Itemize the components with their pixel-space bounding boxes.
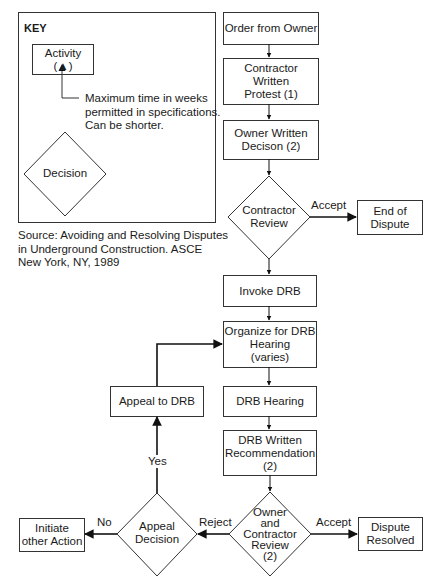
node-appeal-decision: Appeal Decision — [120, 515, 194, 551]
source-citation: Source: Avoiding and Resolving Disputes … — [18, 229, 228, 270]
node-contractor-review: Contractor Review — [229, 196, 309, 238]
node-owner-written-decision: Owner Written Decison (2) — [224, 121, 318, 159]
node-organize-drb-hearing: Organize for DRB Hearing (varies) — [224, 322, 316, 367]
node-contractor-written-protest: Contractor Written Protest (1) — [224, 59, 318, 104]
node-invoke-drb: Invoke DRB — [224, 276, 316, 306]
edge-label-yes: Yes — [147, 455, 168, 468]
key-decision-label: Decision — [24, 167, 106, 180]
edge-label-accept-2: Accept — [316, 516, 351, 529]
node-owner-contractor-review: Owner and Contractor Review (2) — [234, 505, 306, 563]
edge-label-accept-1: Accept — [311, 199, 346, 212]
node-initiate-other-action: Initiate other Action — [20, 519, 84, 551]
key-activity-marker: (▲) — [33, 60, 93, 73]
node-drb-written-recommendation: DRB Written Recommendation (2) — [224, 431, 316, 475]
key-note: Maximum time in weeks permitted in speci… — [85, 92, 221, 133]
node-dispute-resolved: Dispute Resolved — [359, 518, 422, 550]
node-order-from-owner: Order from Owner — [224, 13, 318, 44]
edge-label-reject: Reject — [199, 516, 232, 529]
flowchart-lines — [0, 0, 435, 586]
key-title: KEY — [24, 22, 47, 34]
node-end-of-dispute: End of Dispute — [358, 201, 422, 234]
node-drb-hearing: DRB Hearing — [224, 387, 316, 416]
node-appeal-to-drb: Appeal to DRB — [111, 387, 203, 416]
key-activity-label: Activity — [33, 47, 93, 60]
edge-label-no: No — [97, 516, 112, 529]
